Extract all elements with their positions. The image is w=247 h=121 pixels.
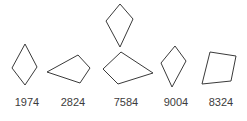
shape-1974-polygon <box>12 44 37 85</box>
shape-label-8324: 8324 <box>199 95 243 109</box>
shape-7584-polygon-lower <box>103 52 153 84</box>
shape-2824-polygon <box>47 55 90 83</box>
shape-9004-polygon <box>161 46 186 87</box>
shape-label-1974: 1974 <box>5 95 49 109</box>
shape-figure: 1974 2824 7584 9004 8324 <box>0 0 247 121</box>
shape-7584-polygon-upper <box>106 4 133 47</box>
shape-label-9004: 9004 <box>154 95 198 109</box>
shape-label-2824: 2824 <box>51 95 95 109</box>
shape-labels-row: 1974 2824 7584 9004 8324 <box>0 95 247 111</box>
shape-8324-polygon <box>202 52 236 84</box>
shape-label-7584: 7584 <box>104 95 148 109</box>
